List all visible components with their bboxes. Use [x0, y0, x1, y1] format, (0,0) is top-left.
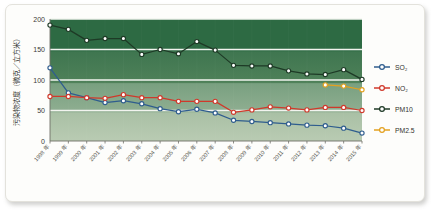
data-point-SO₂[interactable]	[268, 121, 272, 125]
data-point-SO₂[interactable]	[323, 124, 327, 128]
data-point-PM10[interactable]	[85, 38, 89, 42]
data-point-NO₂[interactable]	[103, 96, 107, 100]
x-axis-tick-label: 2009 年	[234, 143, 253, 163]
data-point-NO₂[interactable]	[121, 93, 125, 97]
data-point-PM10[interactable]	[176, 52, 180, 56]
data-point-NO₂[interactable]	[305, 108, 309, 112]
data-point-PM2.5[interactable]	[323, 83, 327, 87]
chart-card: 050100150200污染物浓度（微克／立方米）1998 年1999 年200…	[5, 4, 425, 202]
y-axis-tick-label: 100	[33, 77, 45, 84]
data-point-SO₂[interactable]	[176, 110, 180, 114]
data-point-SO₂[interactable]	[48, 66, 52, 70]
data-point-NO₂[interactable]	[85, 96, 89, 100]
data-point-SO₂[interactable]	[342, 126, 346, 130]
x-axis-tick-label: 2013 年	[307, 143, 326, 163]
data-point-PM10[interactable]	[48, 23, 52, 27]
data-point-SO₂[interactable]	[305, 123, 309, 127]
data-point-PM10[interactable]	[140, 52, 144, 56]
y-axis-tick-label: 0	[41, 138, 45, 145]
legend-label-SO₂: SO₂	[395, 64, 408, 71]
data-point-PM10[interactable]	[213, 48, 217, 52]
data-point-NO₂[interactable]	[213, 99, 217, 103]
data-point-PM10[interactable]	[103, 36, 107, 40]
data-point-SO₂[interactable]	[213, 111, 217, 115]
y-axis-tick-label: 50	[37, 107, 45, 114]
data-point-PM10[interactable]	[323, 72, 327, 76]
data-point-SO₂[interactable]	[103, 100, 107, 104]
x-axis-tick-label: 1999 年	[51, 143, 70, 163]
data-point-SO₂[interactable]	[158, 107, 162, 111]
data-point-NO₂[interactable]	[231, 110, 235, 114]
x-axis-tick-label: 2014 年	[326, 143, 345, 163]
data-point-NO₂[interactable]	[286, 106, 290, 110]
legend-label-NO₂: NO₂	[395, 85, 408, 92]
x-axis-tick-label: 2011 年	[271, 143, 290, 163]
x-axis-tick-label: 2001 年	[87, 143, 106, 163]
legend-marker-NO₂	[380, 86, 385, 91]
data-point-PM10[interactable]	[121, 36, 125, 40]
data-point-NO₂[interactable]	[195, 99, 199, 103]
data-point-NO₂[interactable]	[250, 108, 254, 112]
x-axis-tick-label: 2006 年	[179, 143, 198, 163]
x-axis-tick-label: 2010 年	[252, 143, 271, 163]
x-axis-tick-label: 2015 年	[344, 143, 363, 163]
legend-label-PM2.5: PM2.5	[395, 127, 415, 134]
data-point-NO₂[interactable]	[66, 94, 70, 98]
data-point-SO₂[interactable]	[250, 119, 254, 123]
data-point-PM10[interactable]	[342, 68, 346, 72]
data-point-NO₂[interactable]	[158, 96, 162, 100]
x-axis-tick-label: 2002 年	[106, 143, 125, 163]
x-axis-tick-label: 2003 年	[124, 143, 143, 163]
x-axis-tick-label: 2008 年	[216, 143, 235, 163]
data-point-PM10[interactable]	[250, 64, 254, 68]
y-axis-tick-label: 150	[33, 46, 45, 53]
legend-marker-SO₂	[380, 65, 385, 70]
x-axis-tick-label: 2007 年	[197, 143, 216, 163]
x-axis-tick-label: 2000 年	[69, 143, 88, 163]
data-point-PM10[interactable]	[231, 63, 235, 67]
data-point-NO₂[interactable]	[176, 99, 180, 103]
y-axis-tick-label: 200	[33, 16, 45, 23]
data-point-PM10[interactable]	[360, 77, 364, 81]
legend-label-PM10: PM10	[395, 106, 413, 113]
data-point-PM10[interactable]	[268, 64, 272, 68]
chart-figure: 050100150200污染物浓度（微克／立方米）1998 年1999 年200…	[0, 0, 431, 210]
data-point-NO₂[interactable]	[342, 105, 346, 109]
x-axis-tick-label: 2004 年	[142, 143, 161, 163]
data-point-PM10[interactable]	[158, 47, 162, 51]
data-point-SO₂[interactable]	[195, 107, 199, 111]
data-point-NO₂[interactable]	[323, 105, 327, 109]
data-point-NO₂[interactable]	[268, 105, 272, 109]
data-point-SO₂[interactable]	[121, 99, 125, 103]
data-point-NO₂[interactable]	[360, 108, 364, 112]
data-point-SO₂[interactable]	[231, 118, 235, 122]
data-point-PM10[interactable]	[66, 27, 70, 31]
data-point-PM10[interactable]	[286, 69, 290, 73]
data-point-NO₂[interactable]	[140, 96, 144, 100]
data-point-PM10[interactable]	[195, 39, 199, 43]
data-point-PM10[interactable]	[305, 72, 309, 76]
y-axis-title: 污染物浓度（微克／立方米）	[12, 35, 21, 126]
chart-plot-area: 050100150200污染物浓度（微克／立方米）1998 年1999 年200…	[6, 5, 425, 202]
x-axis-tick-label: 1998 年	[32, 143, 51, 163]
data-point-PM2.5[interactable]	[342, 84, 346, 88]
x-axis-tick-label: 2012 年	[289, 143, 308, 163]
data-point-SO₂[interactable]	[360, 131, 364, 135]
data-point-SO₂[interactable]	[140, 102, 144, 106]
legend-marker-PM2.5	[380, 128, 385, 133]
data-point-SO₂[interactable]	[286, 122, 290, 126]
line-chart-svg: 050100150200污染物浓度（微克／立方米）1998 年1999 年200…	[6, 5, 425, 202]
x-axis-tick-label: 2005 年	[161, 143, 180, 163]
data-point-PM2.5[interactable]	[360, 88, 364, 92]
data-point-NO₂[interactable]	[48, 94, 52, 98]
legend-marker-PM10	[380, 107, 385, 112]
